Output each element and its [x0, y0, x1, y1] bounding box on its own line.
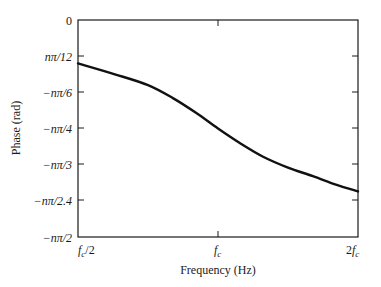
- x-tick-label-fc: fc: [214, 243, 221, 259]
- x-tick-label-2fc: 2fc: [346, 243, 359, 259]
- y-tick-labels: 0 nπ/12 −nπ/6 −nπ/4 −nπ/3 −nπ/2.4 −nπ/2: [34, 14, 72, 245]
- x-axis-title: Frequency (Hz): [180, 263, 256, 277]
- y-tick-label: nπ/12: [45, 50, 72, 64]
- y-tick-label: −nπ/6: [43, 86, 72, 100]
- y-tick-label: −nπ/3: [43, 158, 72, 172]
- x-tick-labels: fc/2 fc 2fc: [78, 243, 359, 259]
- y-tick-label: −nπ/4: [43, 122, 72, 136]
- x-tick-label-fc-half: fc/2: [78, 243, 95, 259]
- y-axis-title: Phase (rad): [9, 101, 23, 155]
- phase-curve: [78, 63, 358, 191]
- phase-response-chart: 0 nπ/12 −nπ/6 −nπ/4 −nπ/3 −nπ/2.4 −nπ/2 …: [0, 0, 381, 287]
- y-tick-label: −nπ/2: [43, 231, 72, 245]
- y-tick-label: −nπ/2.4: [34, 194, 72, 208]
- y-tick-label: 0: [66, 14, 72, 28]
